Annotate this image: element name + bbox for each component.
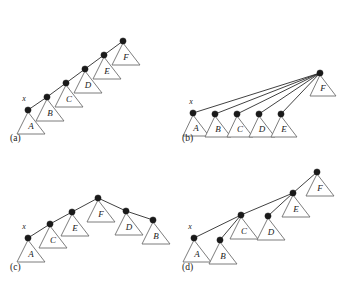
subtree-label-e: E [292,204,299,214]
node-e[interactable] [69,209,75,215]
panel-b: ABCDEFx(b) [182,70,336,144]
subtree-e: E [271,116,297,137]
subtree-label-b: B [153,231,159,241]
subtree-label-f: F [316,183,323,193]
subtree-label-c: C [241,226,248,236]
subtree-label-a: A [27,249,34,259]
subtree-label-e: E [280,124,287,134]
subtree-f: F [306,174,334,196]
node-f[interactable] [314,169,320,175]
subtree-label-c: C [237,124,244,134]
subtree-a: A [17,240,45,262]
subtree-label-f: F [122,52,129,62]
node-f[interactable] [317,70,323,76]
subtree-c: C [39,226,67,248]
subtree-label-f: F [97,209,104,219]
subtree-e: E [61,214,89,236]
subtree-d: D [115,213,143,235]
panel-b-subtrees: ABCDEF [183,75,336,137]
node-x[interactable] [191,235,197,241]
tree-transformation-figure: ABCDEFx(a)ABCDEFx(b)ACEFDBx(c)ABCDEFx(d) [0,0,345,287]
subtree-label-c: C [50,235,57,245]
subtree-c: C [227,116,253,137]
pointer-label-x: x [188,97,193,106]
node-f[interactable] [95,195,101,201]
subtree-label-b: B [220,251,226,261]
subtree-label-d: D [258,124,266,134]
subtree-d: D [249,116,275,137]
panel-c-subtrees: ACEFDB [17,200,170,262]
subtree-label-d: D [267,227,275,237]
node-e[interactable] [278,111,284,117]
subtree-label-a: A [193,249,200,259]
figure-container: ABCDEFx(a)ABCDEFx(b)ACEFDBx(c)ABCDEFx(d) [0,0,345,287]
subtree-label-a: A [27,121,34,131]
node-b[interactable] [212,111,218,117]
panel-caption-a: (a) [10,133,21,144]
panel-c: ACEFDBx(c) [10,195,170,273]
node-c[interactable] [234,111,240,117]
subtree-d: D [257,218,285,240]
panel-caption-c: (c) [10,262,21,273]
panel-d-subtrees: ABCDEF [183,174,334,264]
node-e[interactable] [290,190,296,196]
subtree-label-c: C [66,94,73,104]
node-x[interactable] [25,107,31,113]
panel-caption-b: (b) [182,133,193,144]
subtree-label-f: F [319,83,326,93]
subtree-label-d: D [84,80,92,90]
pointer-label-x: x [21,222,26,231]
subtree-label-e: E [103,66,110,76]
node-c[interactable] [63,80,69,86]
subtree-e: E [282,195,310,217]
subtree-f: F [310,75,336,96]
subtree-label-b: B [47,108,53,118]
node-x[interactable] [190,110,196,116]
panel-a: ABCDEFx(a) [10,38,140,144]
node-b[interactable] [44,94,50,100]
node-e[interactable] [101,52,107,58]
node-d[interactable] [82,66,88,72]
node-b[interactable] [217,237,223,243]
subtree-b: B [209,242,237,264]
subtree-label-d: D [125,222,133,232]
node-x[interactable] [25,235,31,241]
edge-c-to-f [237,73,320,114]
node-c[interactable] [238,212,244,218]
subtree-b: B [142,222,170,244]
panel-a-subtrees: ABCDEF [17,43,140,134]
node-c[interactable] [47,221,53,227]
node-d[interactable] [123,208,129,214]
subtree-label-b: B [215,124,221,134]
subtree-a: A [183,240,211,262]
subtree-c: C [230,217,258,239]
pointer-label-x: x [187,222,192,231]
panel-d: ABCDEFx(d) [182,169,334,273]
panel-b-edges [193,73,320,114]
subtree-f: F [87,200,115,222]
node-f[interactable] [120,38,126,44]
subtree-b: B [205,116,231,137]
subtree-label-a: A [192,123,199,133]
node-b[interactable] [150,217,156,223]
panel-b-nodes [190,70,323,117]
node-d[interactable] [256,111,262,117]
node-d[interactable] [265,213,271,219]
pointer-label-x: x [21,94,26,103]
panel-caption-d: (d) [182,262,193,273]
subtree-label-e: E [71,223,78,233]
